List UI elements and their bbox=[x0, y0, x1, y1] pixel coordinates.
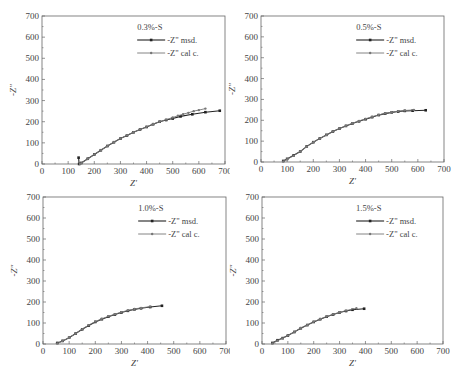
y-tick-label: 0 bbox=[255, 339, 260, 349]
legend-entry: -Z" msd. bbox=[386, 216, 416, 226]
series-line bbox=[272, 309, 364, 343]
x-tick-label: 400 bbox=[359, 346, 373, 356]
data-point bbox=[363, 307, 366, 310]
data-point bbox=[287, 334, 289, 336]
x-tick-label: 700 bbox=[436, 346, 450, 356]
chart-panel-1-5: 0100200300400500600700010020030040050060… bbox=[0, 0, 459, 380]
y-tick-label: 700 bbox=[246, 192, 260, 202]
y-tick-label: 400 bbox=[246, 255, 260, 265]
x-tick-label: 200 bbox=[307, 346, 321, 356]
legend-title: 1.5%-S bbox=[356, 203, 382, 213]
y-axis-label: -Z" bbox=[228, 264, 238, 276]
y-tick-label: 200 bbox=[246, 297, 260, 307]
x-tick-label: 100 bbox=[281, 346, 295, 356]
x-tick-label: 600 bbox=[410, 346, 424, 356]
data-point bbox=[338, 311, 340, 313]
data-point bbox=[276, 339, 278, 341]
data-point bbox=[300, 327, 302, 329]
data-point bbox=[332, 313, 334, 315]
data-point bbox=[271, 342, 273, 344]
y-tick-label: 300 bbox=[246, 276, 260, 286]
data-point bbox=[281, 337, 283, 339]
y-tick-label: 600 bbox=[246, 213, 260, 223]
data-point bbox=[313, 321, 315, 323]
data-point bbox=[325, 315, 327, 317]
data-point bbox=[306, 324, 308, 326]
x-tick-label: 0 bbox=[260, 346, 265, 356]
data-point bbox=[345, 309, 347, 311]
x-axis-label: Z' bbox=[349, 358, 357, 368]
x-tick-label: 300 bbox=[333, 346, 347, 356]
legend-entry: -Z" cal c. bbox=[386, 229, 418, 239]
chart-svg: 0100200300400500600700010020030040050060… bbox=[0, 0, 459, 380]
y-tick-label: 100 bbox=[246, 318, 260, 328]
x-tick-label: 500 bbox=[385, 346, 399, 356]
data-point bbox=[293, 331, 295, 333]
y-tick-label: 500 bbox=[246, 234, 260, 244]
data-point bbox=[319, 318, 321, 320]
series-line bbox=[272, 308, 356, 343]
data-point bbox=[355, 307, 357, 309]
